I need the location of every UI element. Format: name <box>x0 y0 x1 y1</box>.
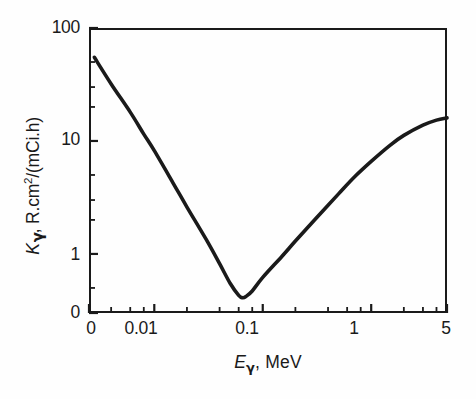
x-tick-label: 0.01 <box>125 320 158 338</box>
gamma-subscript-icon: γ <box>29 232 47 242</box>
plot-frame <box>89 28 447 313</box>
x-tick-label: 0.1 <box>235 320 258 338</box>
x-tick-label: 0 <box>86 320 95 338</box>
x-tick-label: 1 <box>349 320 358 338</box>
x-axis-symbol: E <box>234 352 246 372</box>
y-axis-unit-tail: /(mCi.h) <box>23 117 43 178</box>
x-axis-tick-labels: 0 0.01 0.1 1 5 <box>0 320 476 346</box>
y-axis-symbol: K <box>23 243 43 254</box>
gamma-subscript-icon: γ <box>246 360 255 375</box>
x-tick-label: 5 <box>441 320 450 338</box>
x-axis-unit: , MeV <box>255 352 302 372</box>
y-axis-exponent: 2 <box>22 178 34 184</box>
y-tick-label: 100 <box>28 19 80 37</box>
figure-canvas: 100 10 1 0 0 0.01 0.1 1 5 Kγ, R.cm2/(mCi… <box>0 0 476 399</box>
x-axis-title: Eγ, MeV <box>89 352 447 373</box>
y-axis-title: Kγ, R.cm2/(mCi.h) <box>22 61 44 311</box>
y-axis-unit-head: , R.cm <box>23 184 43 233</box>
